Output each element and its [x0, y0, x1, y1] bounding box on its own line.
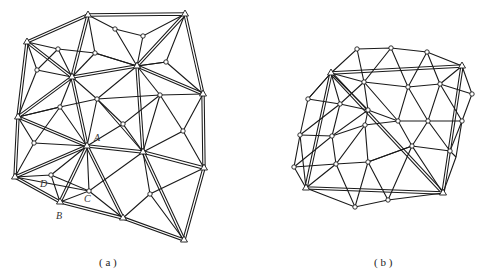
- figure-a-primary-edges: [15, 14, 204, 240]
- caption-figure-b: ( b ): [374, 256, 392, 268]
- triangulation-network-diagram: A D B C: [0, 0, 479, 275]
- label-point-c: C: [84, 193, 91, 204]
- figure-a-network: A D B C: [12, 10, 208, 242]
- caption-figure-a: ( a ): [99, 256, 117, 268]
- label-point-a: A: [93, 132, 101, 143]
- label-point-d: D: [39, 178, 48, 189]
- label-point-b: B: [56, 210, 62, 221]
- figure-b-network: [292, 46, 474, 209]
